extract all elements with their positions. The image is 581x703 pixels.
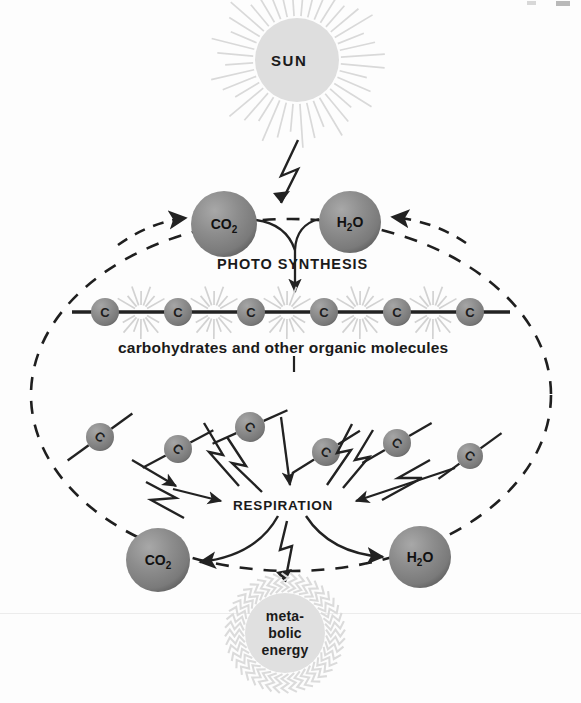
h2o-output-suffix: O xyxy=(422,549,433,565)
co2-input-label: CO xyxy=(211,216,232,232)
h2o-input-sphere: H2O xyxy=(319,191,381,253)
sunlight-energy-bolt xyxy=(273,140,298,203)
scan-artifact-mark xyxy=(527,1,536,5)
carbon-chain-atom-label-1: C xyxy=(100,305,110,320)
carbon-chain-atom-label-2: C xyxy=(173,305,183,320)
metabolic-energy-line-3: energy xyxy=(245,642,325,659)
carbon-chain-atom-label-6: C xyxy=(465,305,475,320)
h2o-input-label: H xyxy=(337,214,347,230)
co2-output-sphere: CO2 xyxy=(126,528,190,592)
h2o-output-label: H xyxy=(407,549,417,565)
photosynthesis-label: PHOTO SYNTHESIS xyxy=(217,256,368,272)
sun-label: SUN xyxy=(271,52,307,69)
co2-input-subscript: 2 xyxy=(232,224,238,235)
respiration-label: RESPIRATION xyxy=(233,498,333,513)
carbon-chain-atom-label-4: C xyxy=(319,305,329,320)
metabolic-energy-label: meta- bolic energy xyxy=(245,608,325,659)
h2o-output-sphere: H2O xyxy=(389,526,451,588)
co2-output-subscript: 2 xyxy=(166,560,172,571)
diagram-canvas: CCCCCC CCCCCC xyxy=(0,0,581,703)
metabolic-energy-line-1: meta- xyxy=(245,608,325,625)
dashed-arrow-to-h2o-upper xyxy=(392,217,466,243)
metabolic-energy-line-2: bolic xyxy=(245,625,325,642)
scan-artifact-mark-2 xyxy=(556,1,570,6)
h2o-input-suffix: O xyxy=(352,214,363,230)
carbon-chain-caption: carbohydrates and other organic molecule… xyxy=(118,339,448,357)
carbon-chain-atom-label-5: C xyxy=(392,305,402,320)
carbon-chain-atom-label-3: C xyxy=(246,305,256,320)
co2-output-label: CO xyxy=(145,552,166,568)
dashed-arrow-to-co2-upper xyxy=(118,218,186,245)
co2-input-sphere: CO2 xyxy=(191,191,257,257)
